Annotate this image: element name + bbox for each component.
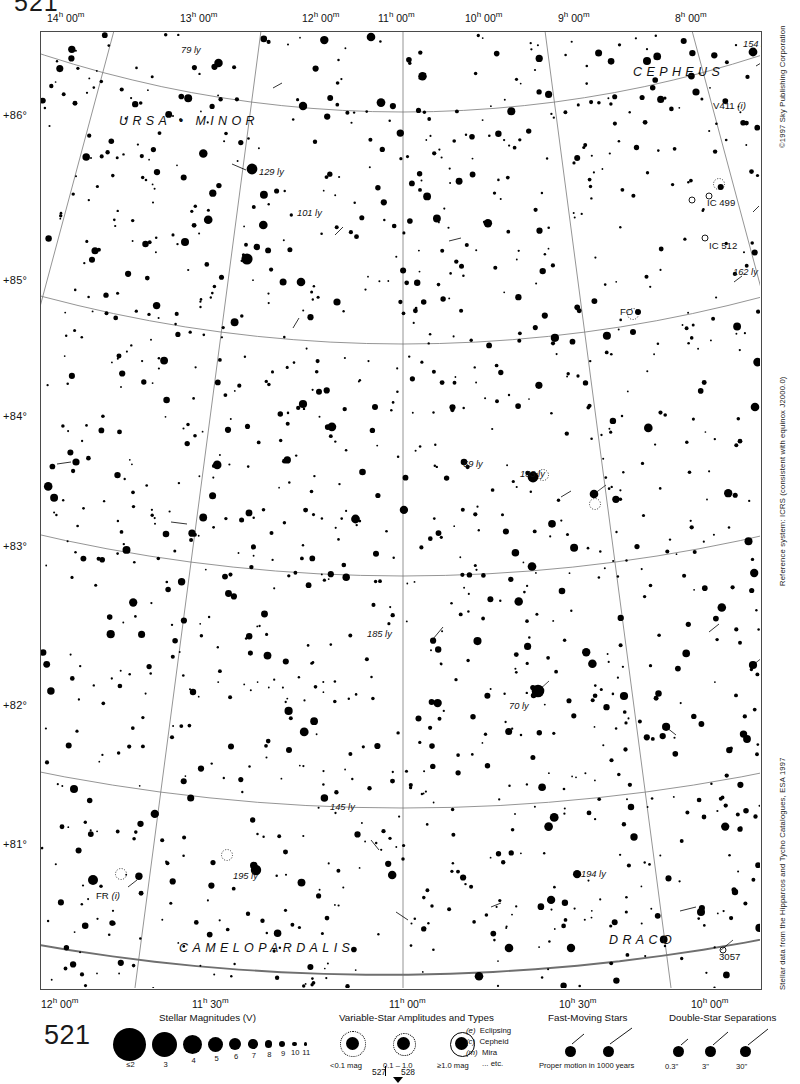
double-star-legend-title: Double-Star Separations (669, 1012, 776, 1023)
ra-label-top-0: 14h 00m (47, 10, 84, 24)
distance-label-7: 185 ly (367, 629, 392, 639)
distance-label-1: 154 ly (743, 39, 762, 49)
magnitude-dot-7 (279, 1041, 285, 1047)
page-number-legend: 521 (44, 1020, 91, 1051)
magnitude-label-4: 6 (228, 1052, 244, 1061)
fast-moving-dot-1 (603, 1046, 614, 1057)
object-label-ic499: IC 499 (707, 197, 735, 208)
distance-label-6: 133 ly (520, 469, 545, 479)
magnitude-dot-4 (229, 1038, 241, 1050)
object-label-fo: FO (620, 306, 633, 317)
star-chart[interactable]: URSA • MINORCEPHEUSCAMELOPARDALISDRACO79… (40, 31, 762, 990)
distance-label-4: 162 ly (733, 267, 758, 277)
double-star-dot-2 (740, 1046, 751, 1057)
object-label-3057: 3057 (719, 951, 740, 962)
distance-label-5: 69 ly (463, 459, 483, 469)
data-source-note: Stellar data from the Hipparcos and Tych… (778, 757, 787, 990)
dec-label-4: +82° (3, 699, 27, 711)
distance-label-11: 194 ly (581, 869, 606, 879)
ra-label-bottom-0: 12h 00m (41, 996, 78, 1010)
fast-moving-caption: Proper motion in 1000 years (539, 1061, 634, 1070)
ra-label-bottom-2: 11h 00m (389, 996, 426, 1010)
magnitude-label-1: 3 (158, 1060, 174, 1069)
ra-label-top-4: 10h 00m (465, 10, 502, 24)
ra-label-top-5: 9h 00m (558, 10, 590, 24)
object-label-fr: FR (i) (96, 890, 120, 901)
ra-label-top-2: 12h 00m (302, 10, 339, 24)
magnitude-dot-8 (292, 1042, 297, 1047)
double-star-label-2: 30" (736, 1062, 747, 1071)
magnitude-dot-1 (152, 1032, 177, 1057)
adjacent-page-left[interactable]: 527 (372, 1067, 386, 1077)
sky-map-graphics (41, 32, 760, 988)
constellation-label-ursaminor: URSA • MINOR (119, 114, 259, 128)
ra-label-bottom-1: 11h 30m (192, 996, 229, 1010)
ra-label-top-3: 11h 00m (378, 10, 415, 24)
variable-amplitude-small-dot (346, 1037, 359, 1050)
dec-label-5: +81° (3, 838, 27, 850)
magnitude-label-0: ≤2 (123, 1060, 139, 1069)
ra-label-bottom-3: 10h 30m (559, 996, 596, 1010)
variable-amplitude-medium-dot (397, 1037, 410, 1050)
legend: 521 Stellar Magnitudes (V) ≤234567891011… (0, 1012, 800, 1084)
variable-amplitude-label-2: ≥1.0 mag (437, 1061, 469, 1070)
distance-label-0: 79 ly (181, 45, 201, 55)
magnitude-dot-6 (265, 1040, 273, 1048)
variable-type-2: (m) Mira (466, 1048, 497, 1057)
ra-label-top-6: 8h 00m (675, 10, 707, 24)
dec-label-1: +85° (3, 274, 27, 286)
reference-system-note: Reference system: ICRS (consistent with … (778, 376, 787, 586)
distance-label-2: 129 ly (259, 167, 284, 177)
fast-moving-dot-0 (565, 1046, 576, 1057)
magnitude-dot-5 (248, 1039, 258, 1049)
variable-type-3: ... etc. (466, 1059, 503, 1068)
ra-label-top-1: 13h 00m (180, 10, 217, 24)
object-label-ic512: IC 512 (709, 240, 737, 251)
dec-label-3: +83° (3, 540, 27, 552)
magnitude-dot-2 (183, 1035, 202, 1054)
variables-legend-title: Variable-Star Amplitudes and Types (339, 1012, 494, 1023)
page-divider-line (385, 1066, 386, 1076)
magnitude-label-3: 5 (209, 1054, 225, 1063)
magnitude-label-5: 7 (246, 1051, 262, 1060)
magnitude-dot-9 (304, 1042, 308, 1046)
adjacent-page-right[interactable]: 528 (401, 1067, 415, 1077)
distance-label-10: 195 ly (233, 871, 258, 881)
constellation-label-cepheus: CEPHEUS (633, 65, 724, 79)
magnitude-label-2: 4 (186, 1056, 202, 1065)
variable-type-1: (c) Cepheid (466, 1037, 508, 1046)
double-star-label-1: 3" (702, 1062, 709, 1071)
double-star-dot-1 (705, 1046, 716, 1057)
object-label-v411: V411 (i) (713, 100, 746, 111)
ra-label-bottom-4: 10h 00m (691, 996, 728, 1010)
page-direction-arrow (393, 1077, 403, 1083)
magnitude-dot-0 (113, 1028, 146, 1061)
fast-moving-legend-title: Fast-Moving Stars (548, 1012, 628, 1023)
constellation-label-camelopardalis: CAMELOPARDALIS (179, 941, 354, 955)
dec-label-2: +84° (3, 410, 27, 422)
distance-label-8: 70 ly (509, 701, 529, 711)
distance-label-9: 145 ly (330, 802, 355, 812)
constellation-label-draco: DRACO (609, 933, 676, 947)
distance-label-3: 101 ly (297, 208, 322, 218)
double-star-dot-0 (673, 1046, 684, 1057)
double-star-label-0: 0.3" (665, 1062, 678, 1071)
magnitude-label-9: 11 (298, 1048, 314, 1057)
magnitudes-legend-title: Stellar Magnitudes (V) (159, 1012, 256, 1023)
magnitude-dot-3 (208, 1037, 223, 1052)
variable-type-0: (e) Eclipsing (466, 1026, 511, 1035)
dec-label-0: +86° (3, 109, 27, 121)
copyright-note: ©1997 Sky Publishing Corporation (778, 25, 787, 148)
variable-amplitude-label-0: <0.1 mag (330, 1061, 362, 1070)
